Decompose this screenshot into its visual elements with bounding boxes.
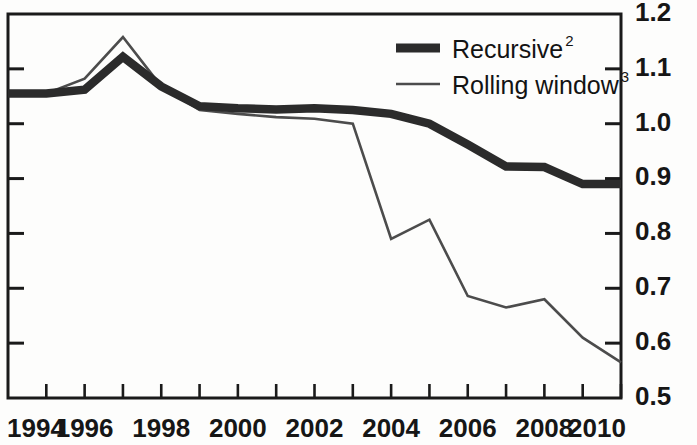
x-tick-label: 2008: [515, 413, 573, 443]
x-axis-tick-labels: 199419961998200020022004200620082010: [7, 413, 626, 443]
x-tick-label: 2000: [209, 413, 267, 443]
legend-item-recursive: Recursive 2: [396, 32, 574, 63]
legend-label-recursive: Recursive: [452, 35, 563, 63]
y-tick-label: 1.2: [635, 0, 671, 27]
y-axis-tick-labels: 1.21.11.00.90.80.70.60.5: [635, 0, 671, 411]
x-tick-label: 1996: [56, 413, 114, 443]
x-tick-label: 1998: [132, 413, 190, 443]
x-axis-ticks: [46, 384, 621, 398]
y-tick-label: 1.0: [635, 107, 671, 137]
y-tick-label: 0.9: [635, 161, 671, 191]
y-tick-label: 0.6: [635, 326, 671, 356]
y-tick-label: 0.7: [635, 271, 671, 301]
x-tick-label: 2010: [568, 413, 626, 443]
y-tick-label: 0.8: [635, 216, 671, 246]
y-tick-label: 0.5: [635, 381, 671, 411]
legend-item-rolling-window: Rolling window 3: [396, 68, 629, 99]
chart-container: 1.21.11.00.90.80.70.60.5 199419961998200…: [0, 0, 697, 445]
chart-legend: Recursive 2 Rolling window 3: [396, 32, 629, 99]
line-chart: 1.21.11.00.90.80.70.60.5 199419961998200…: [0, 0, 697, 445]
legend-footnote-recursive: 2: [565, 32, 573, 49]
x-tick-label: 2006: [439, 413, 497, 443]
x-tick-label: 2004: [362, 413, 420, 443]
legend-footnote-rolling-window: 3: [621, 68, 629, 85]
legend-label-rolling-window: Rolling window: [452, 71, 620, 99]
y-tick-label: 1.1: [635, 52, 671, 82]
x-tick-label: 2002: [286, 413, 344, 443]
